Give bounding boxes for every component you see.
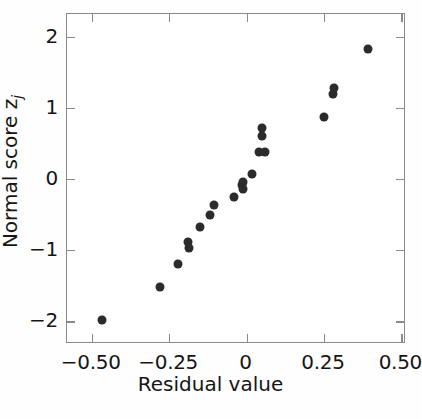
data-point <box>97 315 106 324</box>
x-tick-bottom <box>92 334 93 342</box>
y-tick-left <box>67 108 75 109</box>
x-tick-label: −0.50 <box>61 350 121 374</box>
data-point <box>261 147 270 156</box>
x-tick-top <box>169 14 170 22</box>
figure-caption <box>0 400 421 419</box>
x-tick-bottom <box>401 334 402 342</box>
data-point <box>239 184 248 193</box>
plot-area <box>67 14 404 342</box>
y-tick-left <box>67 321 75 322</box>
data-point <box>258 123 267 132</box>
y-tick-right <box>396 179 404 180</box>
y-tick-label: 1 <box>24 95 58 119</box>
x-tick-top <box>247 14 248 22</box>
data-point <box>319 113 328 122</box>
data-point <box>258 132 267 141</box>
plot-frame <box>66 13 405 343</box>
data-point <box>329 83 338 92</box>
data-point <box>229 192 238 201</box>
y-tick-right <box>396 250 404 251</box>
data-point <box>173 260 182 269</box>
y-tick-left <box>67 250 75 251</box>
x-axis-label: Residual value <box>0 372 421 396</box>
y-tick-left <box>67 179 75 180</box>
x-tick-top <box>401 14 402 22</box>
y-tick-right <box>396 108 404 109</box>
data-point <box>156 283 165 292</box>
data-point <box>363 44 372 53</box>
x-tick-label: −0.25 <box>138 350 198 374</box>
y-axis-label: Normal score zj <box>0 95 26 248</box>
y-tick-right <box>396 37 404 38</box>
y-tick-label: 2 <box>24 24 58 48</box>
data-point <box>184 243 193 252</box>
data-point <box>206 211 215 220</box>
x-tick-bottom <box>247 334 248 342</box>
data-point <box>248 170 257 179</box>
x-tick-bottom <box>324 334 325 342</box>
x-tick-label: 0 <box>239 350 251 374</box>
y-axis-label-text: Normal score z <box>0 99 23 248</box>
y-tick-label: −2 <box>24 308 58 332</box>
x-tick-label: 0.25 <box>301 350 344 374</box>
y-tick-label: 0 <box>24 166 58 190</box>
x-tick-label: 0.50 <box>379 350 422 374</box>
x-tick-top <box>324 14 325 22</box>
x-tick-bottom <box>169 334 170 342</box>
data-point <box>196 222 205 231</box>
data-point <box>210 200 219 209</box>
y-tick-left <box>67 37 75 38</box>
y-tick-label: −1 <box>24 237 58 261</box>
y-tick-right <box>396 321 404 322</box>
x-tick-top <box>92 14 93 22</box>
